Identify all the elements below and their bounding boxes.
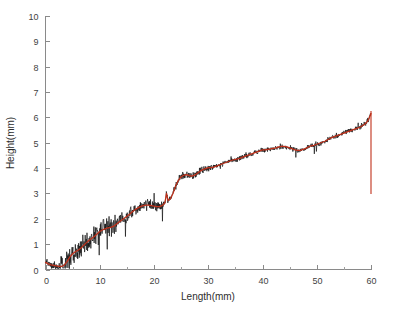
- y-tick-label-8: 8: [33, 63, 38, 73]
- y-axis-title: Height(mm): [5, 117, 16, 169]
- y-tick-label-10: 10: [28, 12, 38, 22]
- x-tick-label-20: 20: [149, 276, 159, 286]
- x-tick-label-50: 50: [312, 276, 322, 286]
- x-tick-label-60: 60: [366, 276, 376, 286]
- x-tick-label-10: 10: [95, 276, 105, 286]
- x-tick-label-40: 40: [258, 276, 268, 286]
- chart-figure: 012345678910 0102030405060 Length(mm) He…: [0, 0, 394, 318]
- y-tick-label-1: 1: [33, 240, 38, 250]
- x-tick-label-30: 30: [203, 276, 213, 286]
- y-tick-label-9: 9: [33, 37, 38, 47]
- y-tick-label-7: 7: [33, 88, 38, 98]
- y-tick-label-5: 5: [33, 139, 38, 149]
- y-tick-label-0: 0: [33, 266, 38, 276]
- line-chart: 012345678910 0102030405060 Length(mm) He…: [0, 0, 394, 318]
- chart-background: [0, 0, 394, 318]
- y-tick-label-2: 2: [33, 215, 38, 225]
- y-tick-label-4: 4: [33, 164, 38, 174]
- x-axis-title: Length(mm): [181, 291, 235, 302]
- x-tick-label-0: 0: [44, 276, 49, 286]
- y-tick-label-6: 6: [33, 113, 38, 123]
- y-tick-label-3: 3: [33, 189, 38, 199]
